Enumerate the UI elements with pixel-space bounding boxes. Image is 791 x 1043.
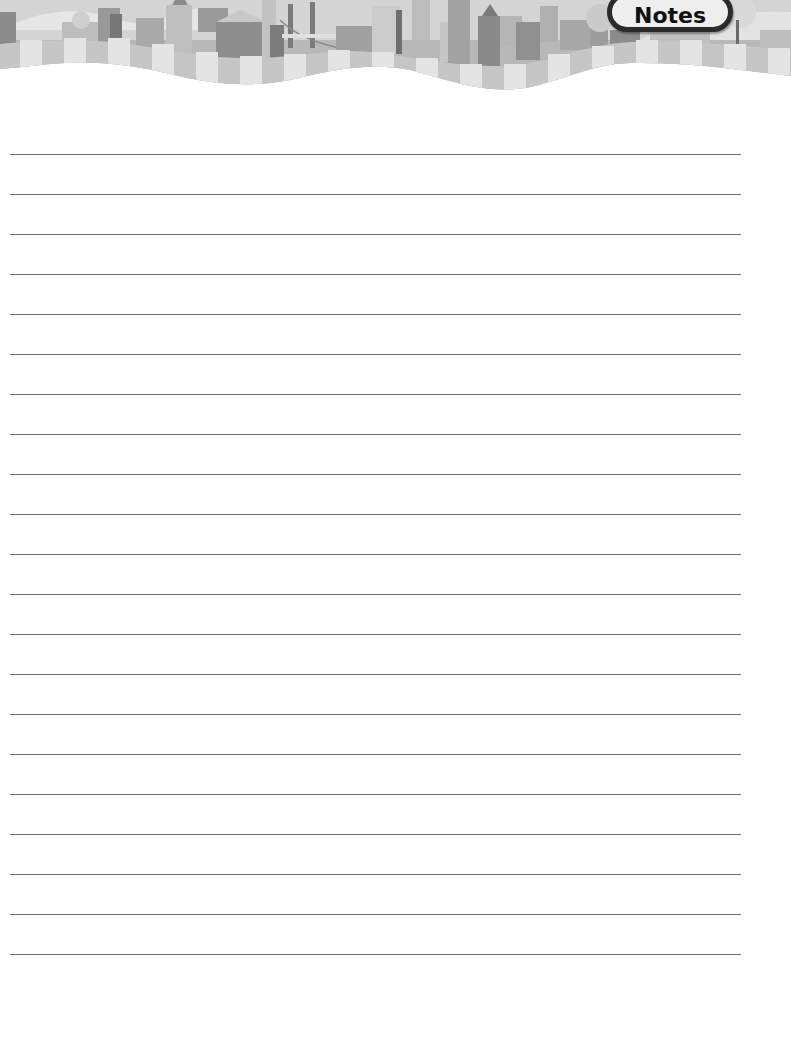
ruled-line xyxy=(10,354,741,355)
city-skyline-banner: Notes xyxy=(0,0,791,100)
ruled-line xyxy=(10,954,741,955)
note-line-input[interactable] xyxy=(10,838,741,874)
ruled-line xyxy=(10,914,741,915)
ruled-line xyxy=(10,394,741,395)
ruled-line xyxy=(10,314,741,315)
note-line-input[interactable] xyxy=(10,718,741,754)
note-line-input[interactable] xyxy=(10,918,741,954)
ruled-line xyxy=(10,194,741,195)
ruled-line xyxy=(10,514,741,515)
ruled-line xyxy=(10,874,741,875)
note-line-input[interactable] xyxy=(10,878,741,914)
ruled-line xyxy=(10,274,741,275)
ruled-line xyxy=(10,794,741,795)
note-line-input[interactable] xyxy=(10,278,741,314)
note-line-input[interactable] xyxy=(10,758,741,794)
ruled-line xyxy=(10,154,741,155)
notes-title: Notes xyxy=(634,3,706,28)
ruled-line xyxy=(10,674,741,675)
ruled-line xyxy=(10,434,741,435)
ruled-line xyxy=(10,474,741,475)
ruled-line xyxy=(10,554,741,555)
note-line-input[interactable] xyxy=(10,118,741,154)
note-line-input[interactable] xyxy=(10,478,741,514)
ruled-line xyxy=(10,754,741,755)
note-line-input[interactable] xyxy=(10,598,741,634)
ruled-line xyxy=(10,834,741,835)
note-line-input[interactable] xyxy=(10,318,741,354)
note-line-input[interactable] xyxy=(10,518,741,554)
note-line-input[interactable] xyxy=(10,558,741,594)
note-line-input[interactable] xyxy=(10,678,741,714)
note-line-input[interactable] xyxy=(10,158,741,194)
ruled-line xyxy=(10,714,741,715)
note-line-input[interactable] xyxy=(10,638,741,674)
notes-title-tab: Notes xyxy=(607,0,733,32)
note-line-input[interactable] xyxy=(10,238,741,274)
note-line-input[interactable] xyxy=(10,358,741,394)
note-line-input[interactable] xyxy=(10,398,741,434)
ruled-line xyxy=(10,634,741,635)
ruled-line xyxy=(10,234,741,235)
ruled-line xyxy=(10,594,741,595)
note-line-input[interactable] xyxy=(10,438,741,474)
note-line-input[interactable] xyxy=(10,798,741,834)
note-line-input[interactable] xyxy=(10,198,741,234)
